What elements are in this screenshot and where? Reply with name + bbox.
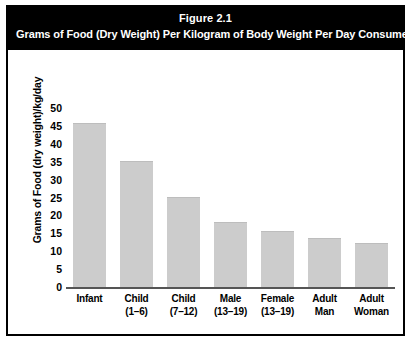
y-tick-label: 0 <box>34 282 62 293</box>
y-tick-label: 30 <box>34 174 62 185</box>
bar-slot <box>254 50 301 287</box>
figure-caption: Grams of Food (Dry Weight) Per Kilogram … <box>16 27 395 41</box>
x-tick-label-line2: (13–19) <box>207 306 254 319</box>
x-tick-label-line1: Adult <box>359 293 384 304</box>
y-tick-label: 50 <box>34 103 62 114</box>
x-tick-label-line1: Infant <box>76 293 102 304</box>
figure-number: Figure 2.1 <box>16 11 395 25</box>
x-tick-label-line1: Adult <box>312 293 337 304</box>
y-tick-label: 15 <box>34 228 62 239</box>
x-tick-label-line2: (13–19) <box>254 306 301 319</box>
y-tick-label: 10 <box>34 246 62 257</box>
x-tick-label: AdultMan <box>301 290 348 332</box>
y-tick-label: 25 <box>34 192 62 203</box>
bar-series <box>66 50 395 287</box>
x-axis-tick-labels: InfantChild(1–6)Child(7–12)Male(13–19)Fe… <box>66 290 395 332</box>
bar-slot <box>66 50 113 287</box>
chart-plot-body: Grams of Food (dry weight)/kg/day 051015… <box>8 50 403 334</box>
bar <box>73 123 106 287</box>
x-tick-label: Infant <box>66 290 113 332</box>
y-tick-label: 45 <box>34 120 62 131</box>
bar-slot <box>348 50 395 287</box>
bar <box>214 222 247 287</box>
figure-container: Figure 2.1 Grams of Food (Dry Weight) Pe… <box>6 5 405 336</box>
y-tick-label: 5 <box>34 264 62 275</box>
plot-area: InfantChild(1–6)Child(7–12)Male(13–19)Fe… <box>66 50 395 334</box>
bar <box>308 238 341 287</box>
bar-slot <box>207 50 254 287</box>
bar <box>120 161 153 287</box>
x-tick-label-line2: Woman <box>348 306 395 319</box>
x-tick-label-line1: Female <box>261 293 294 304</box>
x-tick-label-line1: Child <box>125 293 149 304</box>
x-tick-label-line2: (7–12) <box>160 306 207 319</box>
x-axis-line <box>66 287 395 289</box>
x-tick-label-line1: Male <box>220 293 241 304</box>
x-tick-label-line2: Man <box>301 306 348 319</box>
bar <box>167 197 200 288</box>
bar-slot <box>301 50 348 287</box>
x-tick-label-line2: (1–6) <box>113 306 160 319</box>
x-tick-label-line1: Child <box>172 293 196 304</box>
x-tick-label: Child(1–6) <box>113 290 160 332</box>
bar-slot <box>160 50 207 287</box>
x-tick-label: AdultWoman <box>348 290 395 332</box>
bar <box>261 231 294 287</box>
bar <box>355 243 388 287</box>
y-axis-tick-labels: 05101520253035404550 <box>34 50 62 334</box>
y-tick-label: 20 <box>34 210 62 221</box>
y-tick-label: 40 <box>34 138 62 149</box>
figure-header: Figure 2.1 Grams of Food (Dry Weight) Pe… <box>8 7 403 50</box>
bar-slot <box>113 50 160 287</box>
x-tick-label: Male(13–19) <box>207 290 254 332</box>
x-tick-label: Child(7–12) <box>160 290 207 332</box>
x-tick-label: Female(13–19) <box>254 290 301 332</box>
y-tick-label: 35 <box>34 156 62 167</box>
